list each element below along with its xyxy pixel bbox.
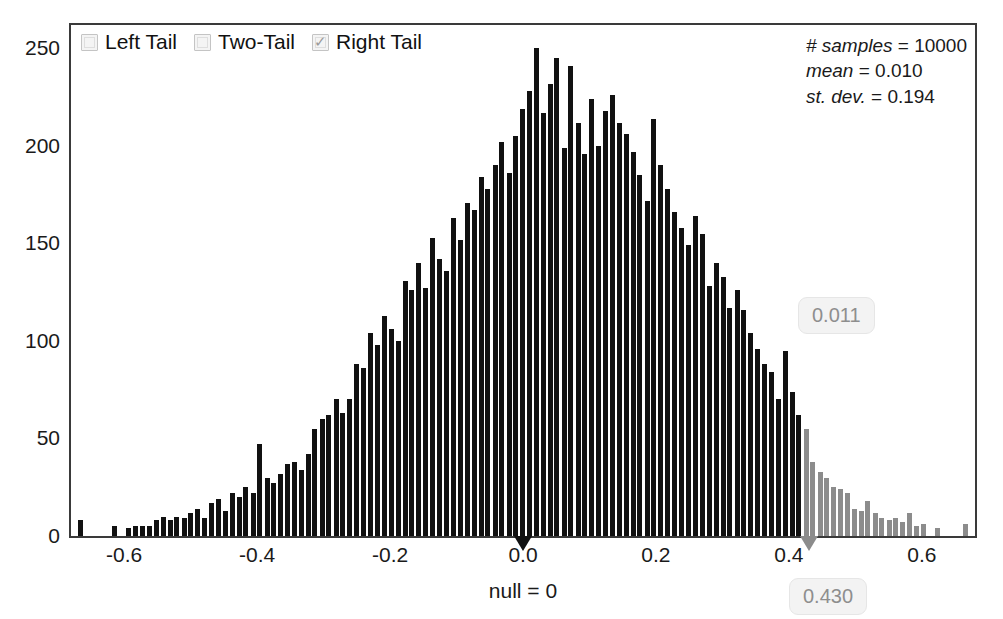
checkmark-icon: ✓ [314, 34, 327, 49]
histogram-bar [306, 454, 311, 536]
histogram-bar [320, 419, 325, 536]
histogram-bar [423, 288, 428, 536]
histogram-bar [845, 493, 850, 536]
histogram-bar [790, 392, 795, 536]
histogram-bar [375, 345, 380, 536]
histogram-bar [748, 333, 753, 536]
histogram-bar [416, 263, 421, 536]
histogram-bar [727, 308, 732, 536]
histogram-bar [237, 497, 242, 536]
histogram-bar [534, 48, 539, 536]
histogram-bar [810, 462, 815, 536]
checkbox-two-tail-icon[interactable]: ✓ [194, 34, 211, 51]
histogram-bar [796, 415, 801, 536]
histogram-bar [879, 518, 884, 536]
histogram-bar [637, 175, 642, 536]
histogram-bar [312, 429, 317, 536]
histogram-bar [403, 281, 408, 537]
histogram-bar [700, 234, 705, 536]
histogram-bar [126, 528, 131, 536]
histogram-bar [603, 111, 608, 536]
histogram-bar [451, 218, 456, 536]
histogram-bar [617, 123, 622, 536]
histogram-bar [243, 487, 248, 536]
histogram-bar [444, 271, 449, 536]
histogram-bar [873, 513, 878, 536]
histogram-bar [852, 509, 857, 536]
histogram-bar [865, 501, 870, 536]
histogram-bar [479, 177, 484, 536]
observed-value-badge[interactable]: 0.430 [789, 578, 867, 615]
histogram-bar [554, 58, 559, 536]
histogram-bar [485, 189, 490, 536]
histogram-bar [458, 240, 463, 536]
histogram-bar [340, 413, 345, 536]
histogram-bar [112, 526, 117, 536]
histogram-bar [182, 518, 187, 536]
stat-stdev-key: st. dev. [806, 86, 866, 107]
legend-label-two-tail: Two-Tail [218, 30, 295, 54]
p-value-badge[interactable]: 0.011 [798, 297, 875, 334]
histogram-bar [963, 524, 968, 536]
legend-item-right-tail[interactable]: ✓ Right Tail [312, 30, 422, 54]
y-tick-label: 250 [25, 36, 60, 60]
histogram-bar [783, 351, 788, 536]
histogram-bar [140, 526, 145, 536]
histogram-bar [326, 415, 331, 536]
stat-stdev: st. dev. = 0.194 [806, 84, 967, 109]
checkbox-right-tail-icon[interactable]: ✓ [312, 34, 329, 51]
histogram-bar [271, 483, 276, 536]
histogram-bar [265, 478, 270, 537]
y-tick-label: 50 [37, 426, 60, 450]
legend-item-left-tail[interactable]: ✓ Left Tail [81, 30, 177, 54]
histogram-bar [202, 518, 207, 536]
checkbox-left-tail-icon[interactable]: ✓ [81, 34, 98, 51]
histogram-bar [665, 189, 670, 536]
histogram-bar [354, 364, 359, 536]
histogram-bar [735, 290, 740, 536]
histogram-bar [631, 152, 636, 536]
histogram-bar [741, 310, 746, 536]
legend-label-left-tail: Left Tail [105, 30, 177, 54]
histogram-bar [831, 487, 836, 536]
histogram-bar [168, 520, 173, 536]
histogram-bar [568, 66, 573, 536]
tail-selector-legend: ✓ Left Tail ✓ Two-Tail ✓ Right Tail [81, 30, 422, 54]
histogram-bar [368, 333, 373, 536]
histogram-bar [499, 142, 504, 536]
legend-item-two-tail[interactable]: ✓ Two-Tail [194, 30, 295, 54]
histogram-bar [645, 201, 650, 536]
histogram-bar [334, 399, 339, 536]
histogram-bar [914, 526, 919, 536]
stat-mean: mean = 0.010 [806, 58, 967, 83]
observed-value-marker[interactable] [800, 536, 818, 551]
histogram-bar [935, 528, 940, 536]
histogram-bar [900, 522, 905, 536]
histogram-bar [762, 364, 767, 536]
histogram-bar [838, 489, 843, 536]
x-axis: -0.6-0.4-0.20.00.20.40.6 [0, 543, 1003, 577]
y-axis: 050100150200250 [0, 0, 60, 619]
histogram-bar [209, 503, 214, 536]
histogram-bar [679, 228, 684, 536]
histogram-bar [776, 399, 781, 536]
histogram-bar [347, 399, 352, 536]
histogram-bar [230, 493, 235, 536]
x-tick-label: -0.2 [372, 543, 408, 567]
histogram-bar [430, 238, 435, 536]
histogram-bar [859, 511, 864, 536]
null-value-marker [514, 536, 532, 551]
histogram-bar [755, 349, 760, 536]
histogram-bar [216, 499, 221, 536]
histogram-bar [133, 526, 138, 536]
histogram-bar [389, 329, 394, 536]
histogram-bar [507, 173, 512, 536]
histogram-bar [161, 517, 166, 537]
histogram-bar [527, 91, 532, 536]
histogram-bar [278, 474, 283, 536]
null-caption: null = 0 [489, 579, 557, 603]
histogram-bar [472, 210, 477, 536]
y-tick-label: 200 [25, 134, 60, 158]
histogram-bar [465, 203, 470, 537]
histogram-bar [596, 146, 601, 536]
